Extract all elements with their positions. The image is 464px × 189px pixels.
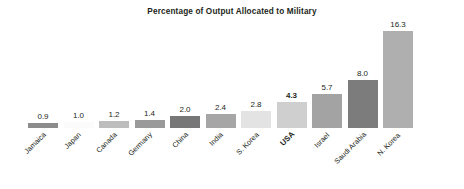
category-label-china: China: [171, 131, 190, 150]
category-label-canada: Canada: [95, 131, 118, 154]
category-label-israel: Israel: [313, 131, 331, 149]
bar-rect[interactable]: [206, 114, 236, 128]
bar-value-label: 1.4: [144, 110, 155, 118]
bar-value-label: 1.0: [73, 112, 84, 120]
category-label-jamaica: Jamaica: [23, 131, 47, 155]
category-label-germany: Germany: [127, 131, 153, 157]
category-label-saudi-arabia: Saudi Arabia: [333, 131, 367, 165]
bar-value-label: 1.2: [108, 111, 119, 119]
bar-rect[interactable]: [99, 121, 129, 128]
bar-group-jamaica: 0.9: [28, 123, 58, 128]
category-label-usa: USA: [279, 131, 296, 148]
bar-value-label: 2.8: [250, 101, 261, 109]
bar-value-label: 16.3: [390, 21, 406, 29]
bar-group-s-korea: 2.8: [241, 111, 271, 128]
bar-value-label: 8.0: [357, 70, 368, 78]
plot-area: 0.9Jamaica1.0Japan1.2Canada1.4Germany2.0…: [0, 0, 464, 189]
bar-rect[interactable]: [241, 111, 271, 128]
bar-group-israel: 5.7: [312, 94, 342, 128]
bar-group-usa: 4.3: [277, 102, 307, 128]
bar-rect[interactable]: [312, 94, 342, 128]
category-label-n-korea: N. Korea: [376, 131, 402, 157]
bar-group-n-korea: 16.3: [383, 31, 413, 128]
bar-group-saudi-arabia: 8.0: [348, 80, 378, 128]
bar-value-label: 4.3: [286, 92, 297, 100]
bar-rect[interactable]: [135, 120, 165, 128]
category-label-japan: Japan: [63, 131, 82, 150]
bar-group-china: 2.0: [170, 116, 200, 128]
category-label-india: India: [208, 131, 224, 147]
bar-value-label: 0.9: [37, 113, 48, 121]
bar-rect[interactable]: [277, 102, 307, 128]
bar-rect[interactable]: [64, 122, 94, 128]
bar-group-japan: 1.0: [64, 122, 94, 128]
category-label-s-korea: S. Korea: [235, 131, 260, 156]
bar-value-label: 5.7: [321, 84, 332, 92]
bar-value-label: 2.4: [215, 104, 226, 112]
bar-group-india: 2.4: [206, 114, 236, 128]
bar-group-germany: 1.4: [135, 120, 165, 128]
bar-group-canada: 1.2: [99, 121, 129, 128]
bar-rect[interactable]: [383, 31, 413, 128]
bar-rect[interactable]: [348, 80, 378, 128]
bar-chart: Percentage of Output Allocated to Milita…: [0, 0, 464, 189]
bar-rect[interactable]: [170, 116, 200, 128]
bar-rect[interactable]: [28, 123, 58, 128]
bar-value-label: 2.0: [179, 106, 190, 114]
